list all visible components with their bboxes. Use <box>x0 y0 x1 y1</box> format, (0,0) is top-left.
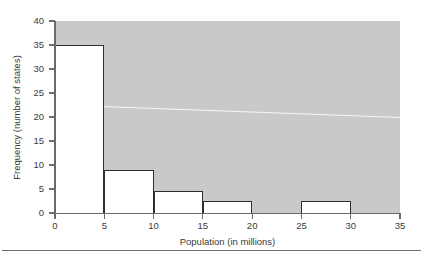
y-tick-15 <box>49 140 55 141</box>
y-tick-40 <box>49 20 55 21</box>
y-tick-10 <box>49 164 55 165</box>
y-tick-20 <box>49 116 55 117</box>
y-tick-25 <box>49 92 55 93</box>
x-tick-label-0: 0 <box>40 221 70 231</box>
x-tick-5 <box>104 213 105 219</box>
x-tick-20 <box>252 213 253 219</box>
x-tick-label-5: 5 <box>89 221 119 231</box>
x-tick-15 <box>202 213 203 219</box>
y-tick-30 <box>49 68 55 69</box>
x-tick-label-35: 35 <box>385 221 415 231</box>
x-tick-30 <box>350 213 351 219</box>
x-tick-0 <box>54 213 55 219</box>
histogram-bar <box>203 201 252 213</box>
histogram-bar <box>55 45 104 213</box>
histogram-bar <box>301 201 350 213</box>
histogram-figure: 0510152025303540 05101520253035 Frequenc… <box>0 0 423 266</box>
histogram-bar <box>104 170 153 213</box>
x-tick-label-15: 15 <box>188 221 218 231</box>
x-tick-25 <box>301 213 302 219</box>
x-tick-label-25: 25 <box>286 221 316 231</box>
y-tick-5 <box>49 188 55 189</box>
y-tick-35 <box>49 44 55 45</box>
x-tick-label-10: 10 <box>139 221 169 231</box>
x-tick-label-20: 20 <box>237 221 267 231</box>
x-axis-title: Population (in millions) <box>55 236 400 247</box>
y-axis-title: Frequency (number of states) <box>10 21 22 213</box>
histogram-bar <box>154 191 203 213</box>
y-axis-title-text: Frequency (number of states) <box>11 55 22 180</box>
x-axis-line <box>54 213 400 215</box>
x-tick-35 <box>399 213 400 219</box>
x-tick-10 <box>153 213 154 219</box>
x-tick-label-30: 30 <box>336 221 366 231</box>
bottom-divider <box>2 250 421 251</box>
